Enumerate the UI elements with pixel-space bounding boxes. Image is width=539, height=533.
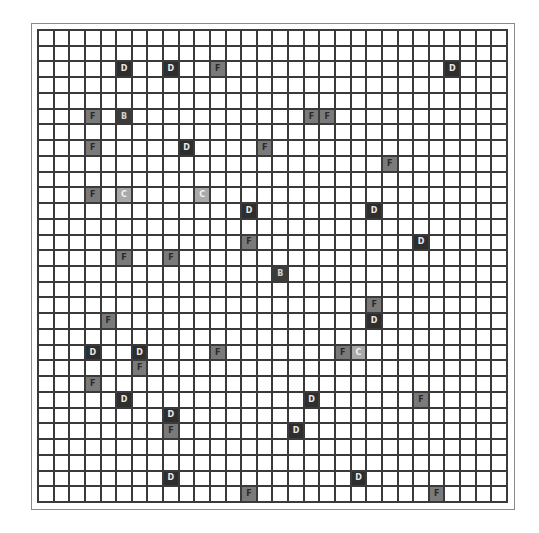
board-cell-empty[interactable] [164,346,180,362]
board-cell-empty[interactable] [242,78,258,94]
board-cell-empty[interactable] [117,157,133,173]
board-cell-empty[interactable] [55,377,71,393]
board-cell-empty[interactable] [86,31,102,47]
board-cell-empty[interactable] [117,409,133,425]
board-cell-empty[interactable] [227,236,243,252]
board-cell-f[interactable]: F [164,424,180,440]
board-cell-f[interactable]: F [86,110,102,126]
board-cell-empty[interactable] [227,204,243,220]
board-cell-empty[interactable] [367,47,383,63]
board-cell-empty[interactable] [258,361,274,377]
board-cell-empty[interactable] [39,440,55,456]
board-cell-empty[interactable] [445,456,461,472]
board-cell-empty[interactable] [164,188,180,204]
board-cell-empty[interactable] [86,78,102,94]
board-cell-empty[interactable] [414,346,430,362]
board-cell-empty[interactable] [242,220,258,236]
board-cell-empty[interactable] [195,361,211,377]
board-cell-empty[interactable] [55,236,71,252]
board-cell-empty[interactable] [55,31,71,47]
board-cell-empty[interactable] [383,440,399,456]
board-cell-b[interactable]: B [117,110,133,126]
board-cell-empty[interactable] [39,267,55,283]
board-cell-empty[interactable] [273,47,289,63]
board-cell-empty[interactable] [133,236,149,252]
board-cell-empty[interactable] [164,298,180,314]
board-cell-empty[interactable] [117,31,133,47]
board-cell-empty[interactable] [305,31,321,47]
board-cell-empty[interactable] [383,377,399,393]
board-cell-empty[interactable] [55,110,71,126]
board-cell-empty[interactable] [258,440,274,456]
board-cell-empty[interactable] [367,346,383,362]
board-cell-empty[interactable] [55,330,71,346]
board-cell-empty[interactable] [445,47,461,63]
board-cell-empty[interactable] [180,251,196,267]
board-cell-empty[interactable] [289,330,305,346]
board-cell-empty[interactable] [289,440,305,456]
board-cell-empty[interactable] [39,157,55,173]
board-cell-empty[interactable] [39,141,55,157]
board-cell-empty[interactable] [414,267,430,283]
board-cell-empty[interactable] [55,94,71,110]
board-cell-empty[interactable] [133,283,149,299]
board-cell-empty[interactable] [273,330,289,346]
board-cell-c[interactable]: C [117,188,133,204]
board-cell-empty[interactable] [352,62,368,78]
board-cell-d[interactable]: D [164,472,180,488]
board-cell-empty[interactable] [477,173,493,189]
board-cell-empty[interactable] [445,251,461,267]
board-cell-empty[interactable] [55,47,71,63]
board-cell-empty[interactable] [305,204,321,220]
board-cell-empty[interactable] [430,157,446,173]
board-cell-empty[interactable] [383,125,399,141]
board-cell-empty[interactable] [86,487,102,503]
board-cell-empty[interactable] [195,377,211,393]
board-cell-empty[interactable] [367,173,383,189]
board-cell-empty[interactable] [461,31,477,47]
board-cell-empty[interactable] [70,487,86,503]
board-cell-empty[interactable] [117,346,133,362]
board-cell-empty[interactable] [39,47,55,63]
board-cell-empty[interactable] [195,283,211,299]
board-cell-empty[interactable] [289,78,305,94]
board-cell-empty[interactable] [414,62,430,78]
board-cell-empty[interactable] [86,314,102,330]
board-cell-empty[interactable] [399,456,415,472]
board-cell-empty[interactable] [477,346,493,362]
board-cell-empty[interactable] [39,204,55,220]
board-cell-empty[interactable] [477,283,493,299]
board-cell-empty[interactable] [352,440,368,456]
board-cell-empty[interactable] [367,251,383,267]
board-cell-empty[interactable] [180,283,196,299]
board-cell-empty[interactable] [258,472,274,488]
board-cell-empty[interactable] [320,330,336,346]
board-cell-f[interactable]: F [336,346,352,362]
board-cell-empty[interactable] [39,283,55,299]
board-cell-empty[interactable] [320,487,336,503]
board-cell-empty[interactable] [39,110,55,126]
board-cell-empty[interactable] [320,47,336,63]
board-cell-empty[interactable] [445,110,461,126]
board-cell-empty[interactable] [461,204,477,220]
board-cell-empty[interactable] [477,47,493,63]
board-cell-empty[interactable] [414,251,430,267]
board-cell-empty[interactable] [117,487,133,503]
board-cell-empty[interactable] [383,251,399,267]
board-cell-empty[interactable] [430,78,446,94]
board-cell-empty[interactable] [39,173,55,189]
board-cell-empty[interactable] [133,314,149,330]
board-cell-empty[interactable] [461,47,477,63]
board-cell-empty[interactable] [477,377,493,393]
board-cell-empty[interactable] [86,472,102,488]
board-cell-empty[interactable] [430,62,446,78]
board-cell-empty[interactable] [445,188,461,204]
board-cell-empty[interactable] [445,330,461,346]
board-cell-empty[interactable] [477,110,493,126]
board-cell-empty[interactable] [445,487,461,503]
board-cell-empty[interactable] [102,110,118,126]
board-cell-empty[interactable] [399,157,415,173]
board-cell-empty[interactable] [320,125,336,141]
board-cell-empty[interactable] [180,31,196,47]
board-cell-empty[interactable] [352,314,368,330]
